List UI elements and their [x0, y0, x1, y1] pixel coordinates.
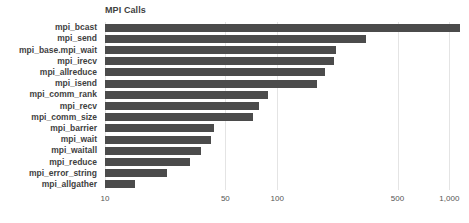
bar-mpi_send[interactable] [105, 35, 366, 43]
x-tick-label: 500 [391, 194, 404, 203]
category-label-mpi_barrier: mpi_barrier [50, 124, 97, 133]
category-label-mpi_comm_rank: mpi_comm_rank [29, 90, 97, 99]
x-tick-label: 50 [221, 194, 230, 203]
x-tick-label: 10 [101, 194, 110, 203]
bar-mpi_comm_rank[interactable] [105, 91, 268, 99]
category-label-mpi_error_string: mpi_error_string [29, 169, 97, 178]
bar-mpi_allgather[interactable] [105, 180, 135, 188]
category-label-mpi_bcast: mpi_bcast [55, 23, 97, 32]
mpi-calls-bar-chart: MPI Calls mpi_bcastmpi_sendmpi_base.mpi_… [0, 0, 469, 223]
bar-mpi_irecv[interactable] [105, 57, 334, 65]
bars-layer [105, 22, 469, 190]
category-label-mpi_wait: mpi_wait [61, 135, 97, 144]
bar-mpi_isend[interactable] [105, 80, 317, 88]
category-label-mpi_isend: mpi_isend [55, 79, 97, 88]
bar-mpi_comm_size[interactable] [105, 113, 253, 121]
category-label-mpi_allgather: mpi_allgather [42, 180, 97, 189]
category-label-mpi_recv: mpi_recv [60, 102, 97, 111]
bar-mpi_waitall[interactable] [105, 147, 201, 155]
bar-mpi_recv[interactable] [105, 102, 259, 110]
bar-mpi_allreduce[interactable] [105, 68, 325, 76]
bar-mpi_reduce[interactable] [105, 158, 190, 166]
category-label-mpi_irecv: mpi_irecv [57, 57, 97, 66]
category-axis-labels: mpi_bcastmpi_sendmpi_base.mpi_waitmpi_ir… [0, 22, 101, 190]
value-axis-labels: 10501005001,000 [105, 194, 469, 208]
category-label-mpi_base.mpi_wait: mpi_base.mpi_wait [19, 46, 97, 55]
x-tick-label: 100 [271, 194, 284, 203]
chart-title: MPI Calls [105, 5, 146, 15]
category-label-mpi_waitall: mpi_waitall [51, 146, 97, 155]
category-label-mpi_comm_size: mpi_comm_size [31, 113, 97, 122]
bar-mpi_base.mpi_wait[interactable] [105, 46, 336, 54]
category-label-mpi_allreduce: mpi_allreduce [40, 68, 97, 77]
bar-mpi_barrier[interactable] [105, 124, 214, 132]
bar-mpi_error_string[interactable] [105, 169, 167, 177]
x-tick-label: 1,000 [439, 194, 459, 203]
bar-mpi_wait[interactable] [105, 136, 211, 144]
bar-mpi_bcast[interactable] [105, 24, 460, 32]
category-label-mpi_reduce: mpi_reduce [49, 158, 97, 167]
plot-area [105, 22, 469, 190]
category-label-mpi_send: mpi_send [57, 34, 97, 43]
